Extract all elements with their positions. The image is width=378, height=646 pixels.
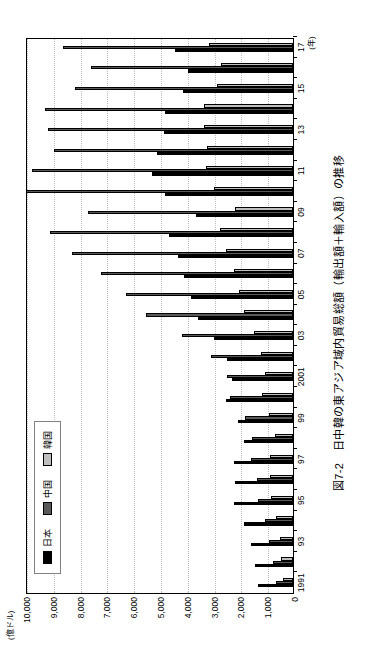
- bar-korea: [270, 475, 293, 478]
- bar-group: [27, 490, 293, 511]
- bar-korea: [270, 455, 293, 458]
- bar-group: [27, 140, 293, 161]
- bar-china: [75, 87, 293, 90]
- bar-korea: [209, 43, 293, 46]
- y-axis-tick-label: 3,000: [210, 593, 220, 643]
- y-axis-tick-label: 5,000: [156, 593, 166, 643]
- y-axis-tick-label: 8,000: [76, 593, 86, 643]
- x-axis-tick-label: 13: [296, 125, 306, 134]
- x-axis-tick-mark: [293, 221, 297, 222]
- bar-japan: [191, 296, 293, 299]
- bar-china: [211, 355, 293, 358]
- plot-inner: 01,0002,0003,0004,0005,0006,0007,0008,00…: [27, 39, 293, 593]
- bar-japan: [175, 49, 293, 52]
- bar-korea: [207, 146, 293, 149]
- bar-group: [27, 284, 293, 305]
- rotated-page-wrapper: (億ドル) 01,0002,0003,0004,0005,0006,0007,0…: [0, 0, 378, 646]
- figure-canvas: (億ドル) 01,0002,0003,0004,0005,0006,0007,0…: [0, 0, 378, 646]
- bar-japan: [188, 69, 293, 72]
- bar-korea: [235, 207, 293, 210]
- bar-japan: [227, 358, 293, 361]
- legend-label: 中国: [41, 480, 54, 498]
- x-axis-tick-label: 03: [296, 331, 306, 340]
- bar-korea: [265, 372, 293, 375]
- bar-china: [48, 128, 293, 131]
- bar-china: [101, 272, 293, 275]
- bar-china: [182, 334, 293, 337]
- bar-group: [27, 119, 293, 140]
- legend-item-japan[interactable]: 日本: [41, 529, 54, 564]
- bar-group: [27, 305, 293, 326]
- x-axis-tick-label: 09: [296, 207, 306, 216]
- y-axis-tick-label: 4,000: [183, 593, 193, 643]
- bar-china: [265, 519, 293, 522]
- bar-china: [63, 46, 293, 49]
- bar-korea: [244, 310, 293, 313]
- x-axis-tick-mark: [293, 448, 297, 449]
- bar-china: [72, 252, 293, 255]
- bar-group: [27, 58, 293, 79]
- x-axis-tick-mark: [293, 345, 297, 346]
- bar-china: [227, 375, 293, 378]
- bar-china: [230, 396, 293, 399]
- legend-label: 日本: [41, 529, 54, 547]
- x-axis-tick-mark: [293, 139, 297, 140]
- x-axis-tick-mark: [293, 57, 297, 58]
- bar-korea: [217, 84, 293, 87]
- bar-china: [146, 313, 293, 316]
- x-axis-tick-label: 11: [296, 166, 306, 175]
- x-axis-tick-mark: [293, 283, 297, 284]
- y-axis-tick-label: 6,000: [129, 593, 139, 643]
- x-axis-tick-label: 99: [296, 413, 306, 422]
- x-axis-tick-label: 05: [296, 290, 306, 299]
- bar-korea: [220, 228, 293, 231]
- bar-korea: [262, 393, 293, 396]
- x-axis-tick-mark: [293, 242, 297, 243]
- bar-japan: [244, 440, 293, 443]
- figure-title: 図7-2 日中韓の東アジア域内貿易総額（輸出額＋輸入額）の推移: [330, 0, 346, 646]
- legend-item-korea[interactable]: 韓国: [41, 431, 54, 466]
- bar-korea: [226, 249, 293, 252]
- bar-korea: [221, 63, 293, 66]
- bar-japan: [244, 523, 293, 526]
- bar-japan: [184, 275, 293, 278]
- bar-korea: [204, 104, 293, 107]
- x-axis-tick-mark: [293, 510, 297, 511]
- x-axis-tick-mark: [293, 427, 297, 428]
- bar-group: [27, 387, 293, 408]
- bar-japan: [234, 502, 293, 505]
- bar-china: [26, 190, 293, 193]
- bar-china: [276, 581, 293, 584]
- bar-group: [27, 531, 293, 552]
- x-axis-tick-mark: [293, 407, 297, 408]
- bar-japan: [152, 172, 294, 175]
- bar-japan: [169, 234, 293, 237]
- x-axis-tick-mark: [293, 118, 297, 119]
- bar-group: [27, 408, 293, 429]
- x-axis-tick-label: 1991: [296, 573, 306, 592]
- bar-japan: [165, 111, 293, 114]
- bar-japan: [183, 90, 293, 93]
- bar-group: [27, 572, 293, 593]
- bar-group: [27, 511, 293, 532]
- bar-china: [50, 231, 293, 234]
- bar-korea: [280, 537, 293, 540]
- bar-korea: [204, 125, 293, 128]
- x-axis-tick-mark: [293, 551, 297, 552]
- bar-china: [32, 169, 293, 172]
- bar-group: [27, 99, 293, 120]
- y-axis-tick-label: 10,000: [22, 593, 32, 643]
- x-axis-tick-mark: [293, 263, 297, 264]
- x-axis-tick-mark: [293, 98, 297, 99]
- x-axis-tick-mark: [293, 180, 297, 181]
- bar-china: [273, 561, 293, 564]
- bar-japan: [258, 584, 293, 587]
- legend-swatch-icon: [43, 551, 52, 564]
- legend-item-china[interactable]: 中国: [41, 480, 54, 515]
- x-axis-tick-label: 2001: [296, 367, 306, 386]
- bar-china: [88, 211, 293, 214]
- bar-japan: [226, 399, 293, 402]
- bar-korea: [206, 166, 293, 169]
- bar-japan: [157, 152, 293, 155]
- y-axis-tick-label: 7,000: [102, 593, 112, 643]
